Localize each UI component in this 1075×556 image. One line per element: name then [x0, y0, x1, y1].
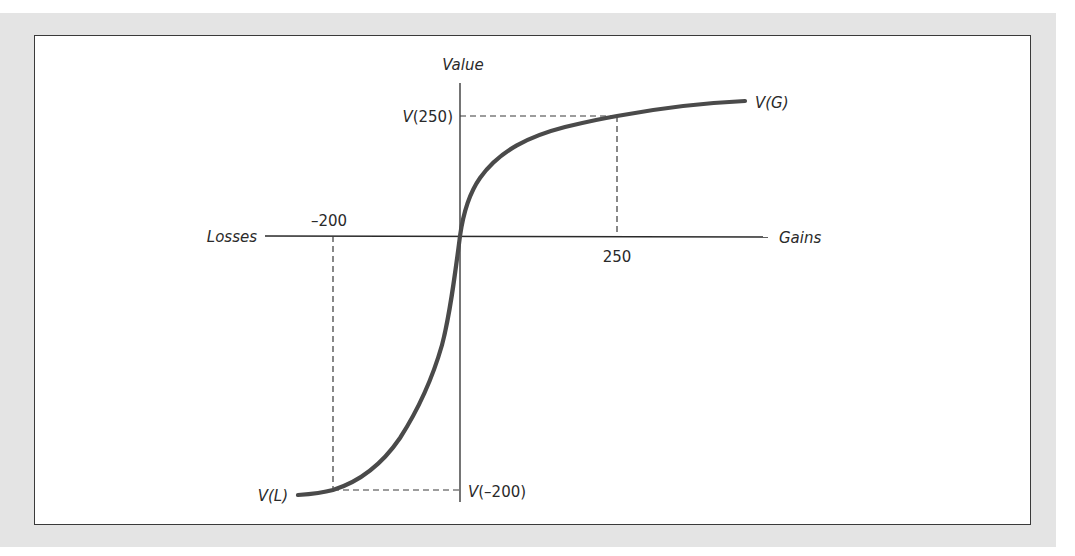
label-v250-arg: (250) — [413, 108, 453, 126]
label-v-losses: V(L) — [258, 487, 288, 505]
tick-neg-200: –200 — [311, 212, 347, 230]
y-axis-label: Value — [442, 56, 483, 74]
value-curve — [298, 101, 745, 495]
label-v250: V(250) — [402, 108, 453, 126]
value-function-diagram: Value Losses Gains –200 250 V(250) V(–20… — [0, 0, 1075, 556]
tick-250: 250 — [603, 248, 632, 266]
x-axis-negative-label: Losses — [207, 228, 257, 246]
x-axis-positive-label: Gains — [779, 229, 821, 247]
label-vneg200-arg: (–200) — [478, 483, 526, 501]
label-vneg200: V(–200) — [468, 483, 526, 501]
x-axis — [265, 236, 768, 237]
label-v-gains: V(G) — [755, 94, 789, 112]
